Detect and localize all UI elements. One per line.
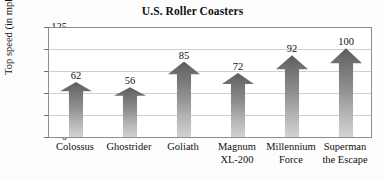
bar-superman-the-escape[interactable] — [330, 48, 362, 137]
bar-value-label: 100 — [319, 36, 372, 47]
chart-container: U.S. Roller Coasters Top speed (in mph) … — [0, 0, 385, 179]
plot-area: 6256857292100 — [48, 27, 372, 138]
x-category-line-1: Ghostrider — [107, 141, 152, 152]
bar-goliath[interactable] — [168, 62, 200, 137]
x-category-line-1: Superman — [324, 141, 367, 152]
bar-colossus[interactable] — [60, 82, 92, 137]
x-category-label-5: Supermanthe Escape — [313, 141, 377, 166]
chart-title: U.S. Roller Coasters — [0, 5, 385, 17]
bar-group: 72 — [211, 27, 265, 137]
bar-value-label: 62 — [49, 70, 103, 81]
bar-group: 92 — [265, 27, 319, 137]
bar-value-label: 85 — [157, 50, 211, 61]
bar-group: 56 — [103, 27, 157, 137]
x-category-line-2: the Escape — [313, 154, 377, 167]
bar-ghostrider[interactable] — [114, 87, 146, 137]
x-category-line-1: Colossus — [56, 141, 94, 152]
bar-group: 85 — [157, 27, 211, 137]
x-category-line-1: Magnum — [218, 141, 256, 152]
bar-millennium-force[interactable] — [276, 55, 308, 137]
x-category-line-1: Millennium — [266, 141, 316, 152]
bar-value-label: 92 — [265, 43, 319, 54]
bar-group: 100 — [319, 27, 372, 137]
y-axis-title: Top speed (in mph) — [2, 0, 16, 90]
bar-value-label: 56 — [103, 75, 157, 86]
bar-value-label: 72 — [211, 61, 265, 72]
bar-magnum-xl-200[interactable] — [222, 73, 254, 137]
bar-group: 62 — [49, 27, 103, 137]
x-category-line-1: Goliath — [167, 141, 199, 152]
